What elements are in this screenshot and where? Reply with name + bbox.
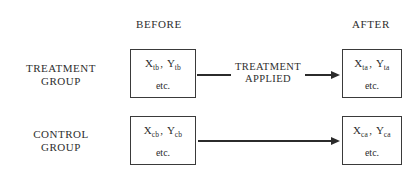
data-box-treatment-before-variables: Xtb,Ytb [131, 57, 195, 69]
variable-x-control-before: Xcb [144, 124, 159, 136]
variable-x-treatment-before: Xtb [145, 57, 159, 69]
variable-y-treatment-before: Ytb [167, 57, 181, 69]
connector-line-control [198, 140, 332, 142]
experimental-design-diagram: BEFORE AFTER TREATMENT GROUP CONTROL GRO… [0, 0, 414, 181]
variable-x-treatment-after: Xta [354, 57, 368, 69]
row-label-treatment-line2: GROUP [8, 75, 114, 88]
variable-x-control-after: Xca [353, 124, 368, 136]
variable-y-control-before: Ycb [167, 124, 182, 136]
column-header-after: AFTER [352, 18, 390, 30]
variable-y-control-after: Yca [376, 124, 391, 136]
row-label-control-group: CONTROL GROUP [8, 128, 114, 154]
row-label-treatment-group: TREATMENT GROUP [8, 62, 114, 88]
variable-separator-treatment-after: , [369, 57, 372, 69]
data-box-treatment-after: Xta,Yta etc. [342, 49, 402, 98]
arrowhead-control-icon [331, 137, 340, 145]
variable-separator-control-after: , [369, 124, 372, 136]
row-label-control-line1: CONTROL [33, 128, 88, 140]
data-box-control-after-etc: etc. [343, 147, 401, 158]
connector-line-treatment-right [305, 74, 332, 76]
data-box-control-after: Xca,Yca etc. [342, 116, 402, 165]
data-box-control-before: Xcb,Ycb etc. [130, 116, 196, 165]
data-box-control-after-variables: Xca,Yca [343, 124, 401, 136]
variable-y-treatment-after: Yta [376, 57, 390, 69]
row-label-control-line2: GROUP [8, 141, 114, 154]
connector-caption-line1: TREATMENT [235, 61, 301, 72]
row-label-treatment-line1: TREATMENT [26, 62, 96, 74]
column-header-before: BEFORE [136, 18, 182, 30]
data-box-control-before-variables: Xcb,Ycb [131, 124, 195, 136]
variable-separator-control-before: , [160, 124, 163, 136]
data-box-treatment-before-etc: etc. [131, 80, 195, 91]
connector-line-treatment-left [197, 74, 231, 76]
connector-caption-treatment-applied: TREATMENT APPLIED [228, 61, 308, 85]
data-box-control-before-etc: etc. [131, 147, 195, 158]
data-box-treatment-before: Xtb,Ytb etc. [130, 49, 196, 98]
data-box-treatment-after-etc: etc. [343, 80, 401, 91]
data-box-treatment-after-variables: Xta,Yta [343, 57, 401, 69]
arrowhead-treatment-icon [331, 71, 340, 79]
connector-caption-line2: APPLIED [228, 73, 308, 85]
variable-separator-treatment-before: , [160, 57, 163, 69]
